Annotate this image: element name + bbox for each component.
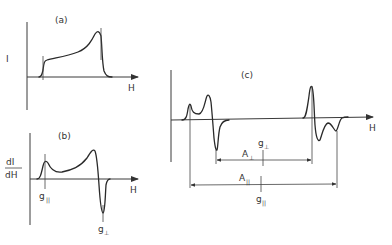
panel-c-g-par-label: g: [256, 194, 262, 204]
panel-c-x-label: H: [369, 123, 376, 133]
panel-b-g-par-label: g: [39, 191, 45, 201]
panel-c-g-perp-label: g: [258, 138, 264, 148]
panel-b-y-label-num: dI: [6, 157, 14, 167]
panel-a-y-label: I: [6, 54, 9, 64]
panel-a-label: (a): [55, 15, 68, 25]
panel-b-y-label-den: dH: [5, 170, 17, 180]
panel-c-high-field-signal: [303, 86, 348, 140]
panel-b-g-perp-label: g: [98, 224, 104, 234]
panel-b-g-par-subscript: ||: [46, 196, 50, 204]
panel-c-a-par-label: A: [239, 173, 246, 183]
panel-c-a-perp-label: A: [242, 149, 249, 159]
panel-c-a-par-subscript: ||: [246, 178, 250, 186]
panel-c-a-par-arrow: [191, 184, 336, 185]
panel-a-x-label: H: [128, 83, 135, 93]
panel-b-x-label: H: [130, 185, 137, 195]
panel-c-g-par-subscript: ||: [262, 199, 266, 207]
epr-diagram: (a) I H (b) dI dH H g || g ⊥ (c) H: [0, 0, 392, 245]
panel-b-label: (b): [58, 131, 71, 141]
panel-c-low-field-signal: [182, 95, 229, 150]
panel-b-derivative-curve: [37, 150, 110, 213]
panel-c-label: (c): [241, 70, 253, 80]
panel-c-a-perp-subscript: ⊥: [249, 154, 254, 161]
panel-a: (a) I H: [6, 15, 138, 110]
panel-c: (c) H A ⊥ g ⊥ A || g ||: [171, 70, 376, 207]
panel-b: (b) dI dH H g || g ⊥: [5, 131, 138, 236]
panel-c-g-perp-subscript: ⊥: [264, 143, 269, 150]
panel-b-g-perp-subscript: ⊥: [104, 229, 109, 236]
